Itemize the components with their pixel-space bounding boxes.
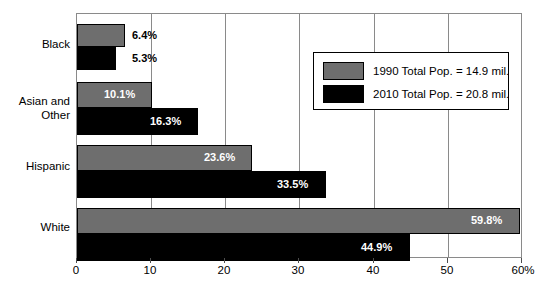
legend: 1990 Total Pop. = 14.9 mil. 2010 Total P…: [313, 52, 509, 110]
bar-label-asian-1990: 10.1%: [104, 89, 135, 100]
bar-label-black-2010: 5.3%: [132, 53, 157, 64]
x-tick-label-20: 20: [218, 264, 231, 276]
bar-label-hispanic-1990: 23.6%: [204, 152, 235, 163]
bar-label-hispanic-2010: 33.5%: [277, 179, 308, 190]
category-label-asian-and-other: Asian and Other: [0, 95, 70, 122]
x-tick-mark-0: [76, 258, 77, 263]
category-label-white: White: [0, 221, 70, 235]
category-label-black-text: Black: [42, 38, 70, 50]
x-tick-mark-40: [373, 258, 374, 263]
bar-label-white-2010: 44.9%: [361, 242, 392, 253]
x-tick-mark-60: [521, 258, 522, 263]
category-label-hispanic-text: Hispanic: [26, 160, 70, 172]
legend-label-2010: 2010 Total Pop. = 20.8 mil.: [373, 88, 509, 100]
x-tick-label-30: 30: [292, 264, 305, 276]
x-tick-mark-30: [298, 258, 299, 263]
legend-swatch-2010-icon: [323, 85, 364, 103]
category-label-asian-line1: Asian and: [0, 95, 70, 109]
legend-swatch-1990-icon: [323, 62, 364, 80]
category-label-asian-line2: Other: [0, 109, 70, 123]
bar-white-1990[interactable]: [77, 208, 520, 234]
x-tick-mark-10: [150, 258, 151, 263]
bar-black-2010[interactable]: [77, 47, 116, 70]
bar-black-1990[interactable]: [77, 24, 125, 47]
legend-item-2010[interactable]: 2010 Total Pop. = 20.8 mil.: [323, 84, 509, 104]
category-label-black: Black: [0, 38, 70, 52]
bar-label-white-1990: 59.8%: [471, 215, 502, 226]
x-tick-mark-20: [224, 258, 225, 263]
category-label-white-text: White: [41, 221, 70, 233]
bar-label-asian-2010: 16.3%: [150, 116, 181, 127]
legend-label-1990: 1990 Total Pop. = 14.9 mil.: [373, 65, 509, 77]
grouped-bar-chart: Black Asian and Other Hispanic White 6.4…: [0, 0, 549, 289]
category-label-hispanic: Hispanic: [0, 160, 70, 174]
x-tick-label-60: 60%: [511, 264, 534, 276]
legend-item-1990[interactable]: 1990 Total Pop. = 14.9 mil.: [323, 61, 509, 81]
x-tick-label-50: 50: [441, 264, 454, 276]
x-tick-label-40: 40: [367, 264, 380, 276]
x-tick-label-0: 0: [73, 264, 79, 276]
x-tick-mark-50: [447, 258, 448, 263]
bar-label-black-1990: 6.4%: [132, 30, 157, 41]
x-tick-label-10: 10: [144, 264, 157, 276]
plot-area: 6.4% 5.3% 10.1% 16.3% 23.6% 33.5%: [76, 13, 522, 258]
